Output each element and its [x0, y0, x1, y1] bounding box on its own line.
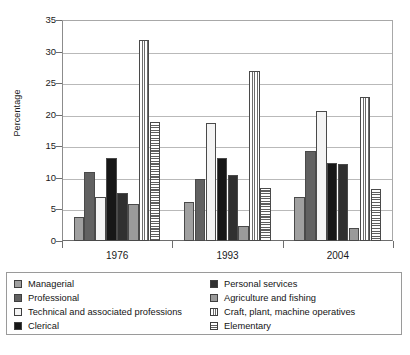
bar-1976-elementary [150, 122, 160, 241]
legend-item-agriculture-and-fishing[interactable]: Agriculture and fishing [210, 291, 400, 305]
bar-1993-elementary [260, 188, 270, 241]
y-tick-label: 0 [30, 236, 56, 246]
legend-label: Agriculture and fishing [224, 293, 316, 303]
bar-1993-managerial [184, 202, 194, 241]
bar-1976-personal-services [117, 193, 127, 241]
bar-1976-technical-and-associated-professions [95, 197, 105, 241]
legend-swatch-icon-managerial [14, 280, 22, 288]
bar-1993-agriculture-and-fishing [238, 226, 248, 241]
bar-1993-clerical [217, 158, 227, 241]
y-tick-label: 30 [30, 47, 56, 57]
x-tick-label-2004: 2004 [303, 250, 373, 261]
legend-label: Craft, plant, machine operatives [224, 307, 355, 317]
bar-1993-personal-services [228, 175, 238, 241]
legend-item-elementary[interactable]: Elementary [210, 319, 400, 333]
bar-1993-technical-and-associated-professions [206, 123, 216, 241]
legend-item-craft-plant-machine-operatives[interactable]: Craft, plant, machine operatives [210, 305, 400, 319]
bar-chart: Percentage 35302520151050 197619932004 M… [0, 0, 410, 355]
bar-2004-professional [305, 151, 315, 241]
legend-swatch-icon-elementary [210, 322, 218, 330]
legend-swatch-icon-craft-plant-machine-operatives [210, 308, 218, 316]
bar-2004-agriculture-and-fishing [349, 228, 359, 241]
legend-label: Managerial [28, 279, 74, 289]
legend-column-right: Personal servicesAgriculture and fishing… [210, 277, 400, 333]
legend-swatch-icon-professional [14, 294, 22, 302]
bar-1976-managerial [74, 217, 84, 241]
bar-2004-technical-and-associated-professions [316, 111, 326, 241]
legend-swatch-icon-technical-and-associated-professions [14, 308, 22, 316]
x-tick-label-1993: 1993 [193, 250, 263, 261]
legend-label: Personal services [224, 279, 297, 289]
legend-label: Professional [28, 293, 79, 303]
x-tick-mark [172, 241, 173, 248]
legend-label: Elementary [224, 321, 271, 331]
legend-column-left: ManagerialProfessionalTechnical and asso… [14, 277, 210, 333]
y-tick-label: 35 [30, 15, 56, 25]
x-tick-mark [393, 241, 394, 248]
legend-item-clerical[interactable]: Clerical [14, 319, 210, 333]
bar-2004-managerial [294, 197, 304, 241]
legend-label: Clerical [28, 321, 59, 331]
x-tick-mark [62, 241, 63, 248]
bar-1993-professional [195, 179, 205, 242]
legend: ManagerialProfessionalTechnical and asso… [6, 272, 402, 335]
y-tick-label: 25 [30, 78, 56, 88]
y-tick-label: 10 [30, 173, 56, 183]
legend-item-managerial[interactable]: Managerial [14, 277, 210, 291]
legend-item-technical-and-associated-professions[interactable]: Technical and associated professions [14, 305, 210, 319]
bars-layer [62, 20, 393, 241]
bar-2004-clerical [327, 163, 337, 241]
legend-swatch-icon-personal-services [210, 280, 218, 288]
legend-label: Technical and associated professions [28, 307, 182, 317]
legend-swatch-icon-clerical [14, 322, 22, 330]
bar-1976-professional [84, 172, 94, 241]
x-tick-label-1976: 1976 [82, 250, 152, 261]
bar-2004-personal-services [338, 164, 348, 241]
y-tick-label: 15 [30, 141, 56, 151]
legend-item-professional[interactable]: Professional [14, 291, 210, 305]
bar-1993-craft-plant-machine-operatives [249, 71, 259, 241]
bar-1976-agriculture-and-fishing [128, 204, 138, 241]
bar-2004-elementary [371, 189, 381, 241]
bar-1976-craft-plant-machine-operatives [139, 40, 149, 241]
x-tick-mark [283, 241, 284, 248]
y-tick-label: 5 [30, 204, 56, 214]
legend-swatch-icon-agriculture-and-fishing [210, 294, 218, 302]
legend-item-personal-services[interactable]: Personal services [210, 277, 400, 291]
bar-2004-craft-plant-machine-operatives [360, 97, 370, 241]
y-tick-label: 20 [30, 110, 56, 120]
bar-1976-clerical [106, 158, 116, 241]
